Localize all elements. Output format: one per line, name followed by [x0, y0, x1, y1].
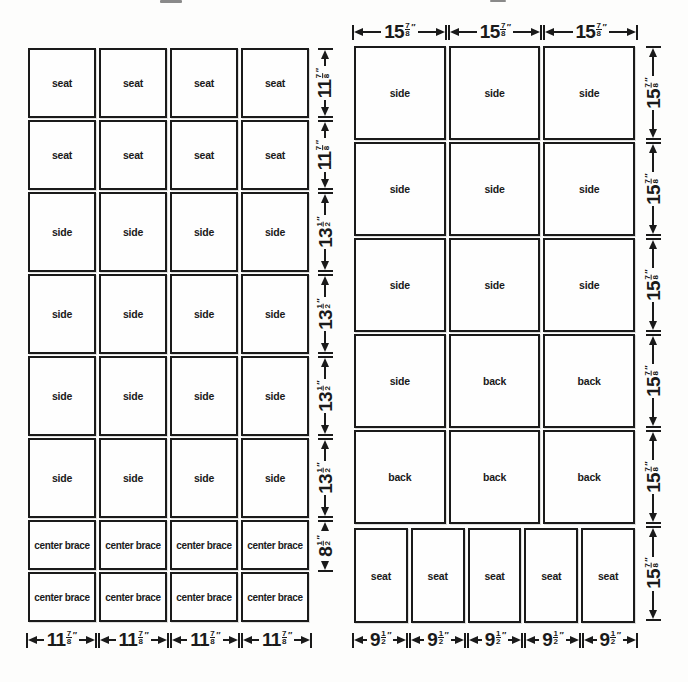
- left-panel-height-dims: 1178″1178″1312″1312″1312″1312″812″: [310, 48, 340, 624]
- fraction-denominator: 2: [323, 468, 330, 472]
- dimension-line: [294, 639, 301, 641]
- dimension-line: [652, 153, 654, 172]
- dimension-fraction: 78: [643, 563, 658, 568]
- piece-cell: side: [354, 142, 446, 236]
- arrow-right-icon: [301, 636, 310, 644]
- dimension-tick: [646, 522, 661, 524]
- piece-cell: side: [99, 438, 167, 518]
- dimension-line: [554, 31, 572, 33]
- fraction-denominator: 2: [439, 638, 443, 645]
- piece-cell: side: [99, 192, 167, 272]
- dimension-fraction: 12: [315, 303, 330, 308]
- dimension-line: [652, 345, 654, 364]
- dimension-line: [324, 172, 326, 179]
- dimension-whole-number: 11: [317, 79, 333, 98]
- fraction-denominator: 2: [381, 638, 385, 645]
- arrow-down-icon: [321, 561, 329, 570]
- dimension-whole-number: 11: [262, 632, 281, 648]
- piece-cell: seat: [241, 48, 309, 118]
- piece-cell: center brace: [99, 572, 167, 622]
- dimension-line: [79, 639, 86, 641]
- dimension-line: [324, 285, 326, 297]
- dimension-label: 1578″: [477, 22, 513, 43]
- arrow-right-icon: [512, 636, 521, 644]
- dimension-tick: [636, 633, 638, 648]
- arrow-down-icon: [649, 225, 657, 234]
- panel-row: sidebackback: [354, 334, 635, 428]
- piece-cell: back: [354, 430, 446, 524]
- inch-mark: ″: [643, 174, 653, 177]
- dimension-whole-number: 13: [317, 228, 333, 248]
- piece-cell: side: [28, 192, 96, 272]
- inch-mark: ″: [314, 536, 324, 539]
- height-dimension: 1578″: [638, 46, 668, 140]
- dimension-label: 1178″: [187, 630, 222, 651]
- dimension-line: [609, 31, 627, 33]
- dimension-tick: [540, 25, 542, 40]
- right-panel-height-dims: 1578″1578″1578″1578″1578″1578″: [638, 46, 668, 623]
- inch-mark: ″: [643, 270, 653, 273]
- piece-cell: seat: [524, 528, 578, 623]
- dimension-label: 1578″: [643, 558, 664, 588]
- arrow-up-icon: [321, 276, 329, 285]
- dimension-tick: [406, 633, 408, 648]
- panel-row: center bracecenter bracecenter bracecent…: [28, 572, 309, 622]
- inch-mark: ″: [507, 22, 510, 32]
- piece-cell: side: [28, 274, 96, 354]
- inch-mark: ″: [288, 630, 291, 640]
- arrow-right-icon: [627, 636, 636, 644]
- arrow-down-icon: [321, 261, 329, 270]
- inch-mark: ″: [315, 463, 325, 466]
- fraction-denominator: 2: [496, 638, 500, 645]
- arrow-left-icon: [243, 636, 252, 644]
- piece-cell: center brace: [241, 520, 309, 570]
- dimension-whole-number: 15: [645, 569, 661, 589]
- dimension-tick: [167, 633, 169, 648]
- dimension-label: 1312″: [315, 381, 336, 411]
- arrow-down-icon: [321, 425, 329, 434]
- dimension-label: 912″: [424, 630, 451, 651]
- piece-cell: seat: [354, 528, 408, 623]
- dimension-fraction: 78: [405, 22, 410, 37]
- arrow-down-icon: [649, 610, 657, 619]
- fraction-denominator: 2: [611, 638, 615, 645]
- width-dimension: 1578″: [352, 19, 447, 45]
- piece-cell: side: [241, 356, 309, 436]
- fraction-denominator: 8: [282, 638, 286, 645]
- piece-cell: back: [449, 334, 541, 428]
- dimension-whole-number: 9: [542, 632, 552, 648]
- dimension-label-box: 1578″: [638, 460, 668, 494]
- piece-cell: side: [28, 438, 96, 518]
- piece-cell: side: [241, 274, 309, 354]
- dimension-line: [652, 537, 654, 557]
- dimension-label-box: 1578″: [638, 557, 668, 591]
- fraction-denominator: 2: [323, 304, 330, 308]
- dimension-label-box: 812″: [310, 531, 340, 561]
- height-dimension: 1312″: [310, 356, 340, 436]
- right-panel-grid: sidesidesidesidesidesidesidesidesideside…: [354, 46, 635, 524]
- dimension-line: [223, 639, 230, 641]
- piece-cell: seat: [28, 120, 96, 190]
- inch-mark: ″: [387, 630, 390, 640]
- fraction-denominator: 8: [597, 30, 601, 37]
- piece-cell: side: [241, 438, 309, 518]
- panel-row: sidesidesideside: [28, 356, 309, 436]
- dimension-line: [109, 639, 116, 641]
- arrow-right-icon: [86, 636, 95, 644]
- panel-row: sidesideside: [354, 142, 635, 236]
- arrow-up-icon: [649, 240, 657, 249]
- dimension-tick: [310, 633, 312, 648]
- dimension-whole-number: 15: [384, 24, 404, 40]
- dimension-tick: [646, 330, 661, 332]
- inch-mark: ″: [617, 630, 620, 640]
- dimension-line: [513, 31, 531, 33]
- dimension-whole-number: 15: [645, 473, 661, 493]
- height-dimension: 812″: [310, 520, 340, 570]
- dimension-tick: [318, 516, 333, 518]
- dimension-whole-number: 11: [47, 632, 66, 648]
- arrow-up-icon: [321, 50, 329, 59]
- piece-cell: seat: [99, 120, 167, 190]
- panel-row: seatseatseatseat: [28, 120, 309, 190]
- arrow-down-icon: [321, 179, 329, 188]
- dimension-tick: [521, 633, 523, 648]
